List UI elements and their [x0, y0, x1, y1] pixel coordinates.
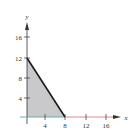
y-axis-label: y [24, 13, 29, 21]
x-axis-arrow-icon [113, 115, 121, 119]
x-tick-label-16: 16 [103, 122, 111, 130]
y-tick-label-12: 12 [15, 55, 23, 63]
x-tick-label-4: 4 [43, 122, 47, 130]
chart: 4 8 12 16 4 8 12 16 x y [0, 0, 137, 137]
y-tick-label-4: 4 [19, 95, 23, 103]
x-tick-label-12: 12 [83, 122, 91, 130]
y-axis-arrow-icon [25, 22, 29, 30]
x-tick-label-8: 8 [63, 122, 67, 130]
y-tick-label-16: 16 [15, 34, 23, 42]
y-tick-label-8: 8 [19, 75, 23, 83]
x-axis-label: x [123, 114, 128, 122]
